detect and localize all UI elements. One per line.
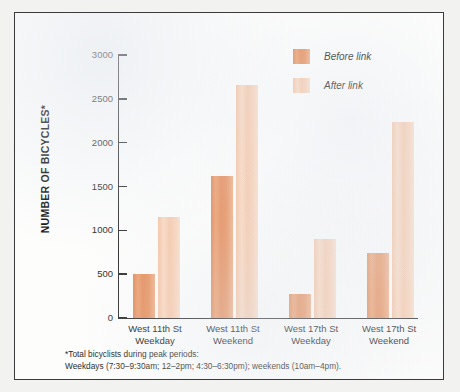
y-tick-mark xyxy=(119,317,127,318)
category-label-line: Weekday xyxy=(110,335,200,347)
y-tick-label-text: 2500 xyxy=(73,94,113,103)
category-label: West 17th StWeekend xyxy=(344,323,434,347)
y-tick-mark xyxy=(119,273,127,274)
footnote-line-2: Weekdays (7:30–9:30am; 12–2pm; 4:30–6:30… xyxy=(65,361,435,373)
category-label-line: West 11th St xyxy=(188,323,278,335)
legend-swatch-icon xyxy=(293,78,310,93)
bar-after xyxy=(236,85,258,318)
legend-item: Before link xyxy=(293,49,371,64)
plot-area: NUMBER OF BICYCLES* 30002500200015001000… xyxy=(15,13,443,379)
footnote: *Total bicyclists during peak periods: W… xyxy=(65,349,435,372)
legend-label: After link xyxy=(324,80,363,91)
category-label-line: Weekday xyxy=(266,335,356,347)
category-label-line: West 11th St xyxy=(110,323,200,335)
category-label-line: Weekend xyxy=(344,335,434,347)
legend-label: Before link xyxy=(324,51,371,62)
y-tick-mark xyxy=(119,98,127,99)
chart-figure: NUMBER OF BICYCLES* 30002500200015001000… xyxy=(14,12,444,380)
bar-before xyxy=(211,176,233,318)
category-label-line: Weekend xyxy=(188,335,278,347)
y-tick-label-text: 0 xyxy=(73,313,113,322)
y-tick-label-text: 1500 xyxy=(73,182,113,191)
bar-before xyxy=(289,294,311,318)
bar-before xyxy=(367,253,389,318)
bar-after xyxy=(392,122,414,318)
bar-before xyxy=(133,274,155,318)
category-label: West 11th StWeekend xyxy=(188,323,278,347)
y-tick-label-text: 3000 xyxy=(73,50,113,59)
legend: Before linkAfter link xyxy=(293,49,371,107)
y-tick-label-text: 1000 xyxy=(73,225,113,234)
footnote-line-1: *Total bicyclists during peak periods: xyxy=(65,349,435,361)
category-label: West 11th StWeekday xyxy=(110,323,200,347)
legend-swatch-icon xyxy=(293,49,310,64)
bar-after xyxy=(314,239,336,318)
y-axis-title: NUMBER OF BICYCLES* xyxy=(39,79,51,259)
y-tick-label-text: 2000 xyxy=(73,138,113,147)
category-label-line: West 17th St xyxy=(266,323,356,335)
y-tick-mark xyxy=(119,142,127,143)
bar-after xyxy=(158,217,180,318)
y-tick-mark xyxy=(119,230,127,231)
y-tick-label-text: 500 xyxy=(73,269,113,278)
y-tick-mark xyxy=(119,54,127,55)
y-tick-mark xyxy=(119,186,127,187)
x-axis-line xyxy=(118,318,418,319)
category-label: West 17th StWeekday xyxy=(266,323,356,347)
category-label-line: West 17th St xyxy=(344,323,434,335)
legend-item: After link xyxy=(293,78,371,93)
